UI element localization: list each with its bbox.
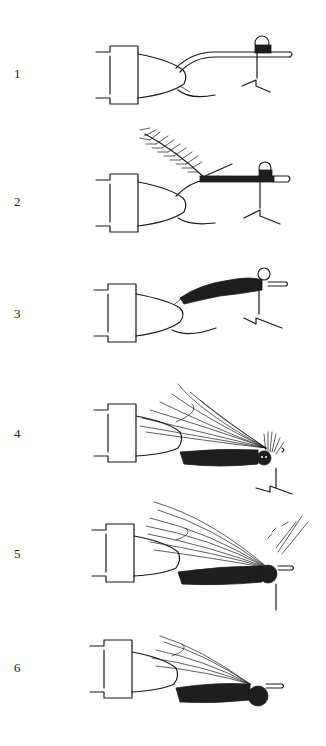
vise-hackle-wound-icon — [0, 492, 326, 616]
wing-fibers-icon — [152, 636, 250, 684]
vise-finished-fly-icon — [0, 612, 326, 736]
step-4: 4 — [0, 372, 326, 496]
vise-body-wrapped-icon — [0, 250, 326, 374]
body-wrap-icon — [175, 268, 288, 304]
step-6: 6 — [0, 612, 326, 736]
vise-wing-added-icon — [0, 372, 326, 496]
hackle-wisps-icon — [268, 516, 308, 554]
hackle-feather-icon — [140, 128, 232, 178]
step-5: 5 — [0, 492, 326, 616]
step-2: 2 — [0, 120, 326, 244]
vise-hook-bare-icon — [0, 12, 326, 136]
step-3: 3 — [0, 250, 326, 374]
wing-fibers-icon — [140, 384, 284, 454]
step-1: 1 — [0, 12, 326, 136]
vise-hackle-tied-icon — [0, 120, 326, 244]
wing-fibers-icon — [146, 502, 268, 568]
